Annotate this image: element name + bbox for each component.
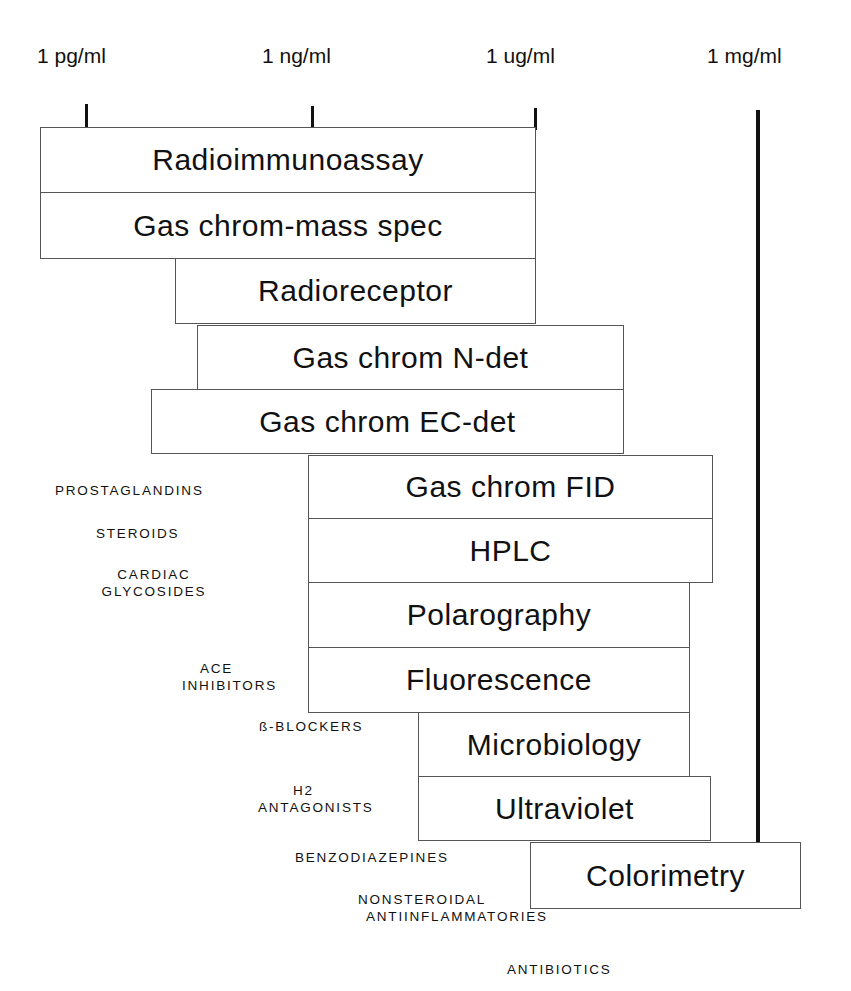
drug-class-antibiotics: ANTIBIOTICS [507, 961, 612, 978]
method-label: Microbiology [467, 728, 641, 762]
method-label: Radioreceptor [258, 274, 453, 308]
method-label: HPLC [469, 534, 551, 568]
scale-label-ng: 1 ng/ml [262, 44, 331, 68]
drug-class-nonsteroidal: NONSTEROIDAL [358, 891, 486, 908]
mg-reference-line [756, 110, 760, 843]
drug-class-beta-blockers: ß-BLOCKERS [259, 718, 363, 735]
method-colorimetry: Colorimetry [530, 842, 801, 909]
method-ultraviolet: Ultraviolet [418, 776, 711, 841]
method-label: Gas chrom N-det [293, 341, 529, 375]
method-gc-ec-det: Gas chrom EC-det [151, 389, 624, 454]
scale-label-ug: 1 ug/ml [486, 44, 555, 68]
method-gc-n-det: Gas chrom N-det [197, 325, 624, 390]
method-radioimmunoassay: Radioimmunoassay [40, 127, 536, 193]
method-radioreceptor: Radioreceptor [175, 258, 536, 324]
drug-class-antiinflammatories: ANTIINFLAMMATORIES [366, 908, 548, 925]
method-gc-fid: Gas chrom FID [308, 455, 713, 519]
method-hplc: HPLC [308, 518, 713, 583]
drug-class-glycosides: GLYCOSIDES [84, 583, 224, 600]
drug-class-h2: H2 [293, 782, 314, 799]
scale-label-mg: 1 mg/ml [707, 44, 782, 68]
drug-class-steroids: STEROIDS [96, 525, 179, 542]
drug-class-inhibitors: INHIBITORS [182, 677, 277, 694]
method-label: Gas chrom FID [406, 470, 616, 504]
method-microbiology: Microbiology [418, 712, 690, 777]
method-label: Gas chrom-mass spec [133, 209, 443, 243]
method-label: Polarography [407, 598, 591, 632]
drug-class-antagonists: ANTAGONISTS [258, 799, 374, 816]
tick-ng [311, 106, 314, 128]
method-label: Ultraviolet [495, 792, 634, 826]
scale-label-pg: 1 pg/ml [37, 44, 106, 68]
drug-class-cardiac: CARDIAC [104, 566, 204, 583]
method-fluorescence: Fluorescence [308, 647, 690, 713]
method-label: Radioimmunoassay [152, 143, 423, 177]
drug-class-benzodiazepines: BENZODIAZEPINES [295, 849, 449, 866]
method-polarography: Polarography [308, 582, 690, 648]
method-label: Colorimetry [586, 859, 745, 893]
drug-class-prostaglandins: PROSTAGLANDINS [55, 482, 204, 499]
tick-pg [85, 104, 88, 128]
method-label: Fluorescence [406, 663, 592, 697]
method-gc-ms: Gas chrom-mass spec [40, 192, 536, 259]
drug-class-ace: ACE [200, 660, 233, 677]
method-label: Gas chrom EC-det [259, 405, 515, 439]
